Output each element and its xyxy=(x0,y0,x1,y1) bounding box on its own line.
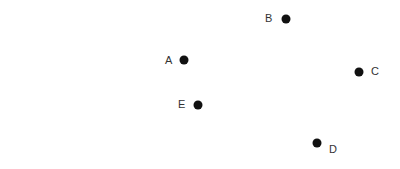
points-layer: ABCDE xyxy=(165,12,379,155)
point-dot-icon xyxy=(355,68,364,77)
point-c: C xyxy=(355,65,380,77)
point-dot-icon xyxy=(313,139,322,148)
point-label: C xyxy=(371,65,379,77)
point-label: A xyxy=(165,54,173,66)
point-dot-icon xyxy=(282,15,291,24)
point-label: B xyxy=(265,12,272,24)
point-e: E xyxy=(178,98,203,110)
point-dot-icon xyxy=(180,56,189,65)
point-b: B xyxy=(265,12,291,24)
point-dot-icon xyxy=(194,101,203,110)
point-label: D xyxy=(329,143,337,155)
points-diagram: ABCDE xyxy=(0,0,400,169)
point-label: E xyxy=(178,98,185,110)
point-d: D xyxy=(313,139,338,155)
point-a: A xyxy=(165,54,189,66)
